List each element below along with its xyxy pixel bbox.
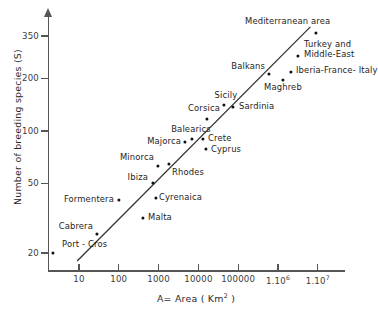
y-tick-label-200: 200 (20, 73, 39, 83)
y-tick-label-50: 50 (20, 178, 39, 188)
data-point-label: Crete (208, 134, 231, 144)
data-point-label: Corsica (188, 104, 220, 114)
data-point (222, 103, 225, 106)
x-tick-label-text: 1000 (147, 274, 170, 284)
data-point (289, 70, 292, 73)
data-point (95, 232, 98, 235)
data-point (296, 54, 299, 57)
data-point (314, 31, 317, 34)
data-point-label: Sardinia (239, 102, 274, 112)
x-tick-label-1000: 1000 (147, 274, 170, 284)
data-point-label: Cyrenaica (159, 193, 202, 203)
data-point-label: Ibiza (128, 173, 148, 183)
x-axis-title-post: ) (228, 293, 235, 304)
data-point-label: Cyprus (211, 145, 241, 155)
data-point (117, 198, 120, 201)
x-tick-label-text: 1.10 (266, 276, 286, 286)
data-point-label: Turkey and Middle-East (304, 40, 354, 59)
data-point (154, 196, 157, 199)
data-point-label: Rhodes (172, 168, 204, 178)
x-tick-1000 (158, 264, 159, 271)
x-tick-label-exponent: 6 (286, 274, 290, 281)
y-tick-100 (41, 130, 48, 131)
data-point-label: Iberia-France- Italy (296, 66, 378, 76)
data-point-label: Balkans (231, 62, 265, 72)
y-tick-350 (41, 35, 48, 36)
data-point (167, 162, 170, 165)
x-tick-label-1000000: 1.106 (266, 274, 290, 286)
data-point-label: Formentera (64, 195, 114, 205)
x-tick-label-10000000: 1.107 (306, 274, 330, 286)
data-point-label: Sicily (215, 91, 238, 101)
x-tick-10000000 (317, 264, 318, 271)
x-tick-100000 (238, 264, 239, 271)
y-tick-50 (41, 183, 48, 184)
y-tick-label-100: 100 (20, 126, 39, 136)
x-tick-label-10000: 10000 (184, 274, 212, 284)
x-tick-label-text: 1.10 (306, 276, 326, 286)
x-tick-100 (118, 264, 119, 271)
x-tick-label-text: 100 (110, 274, 127, 284)
data-point (267, 72, 270, 75)
x-tick-label-exponent: 7 (326, 274, 330, 281)
data-point (156, 164, 159, 167)
data-point (141, 216, 144, 219)
y-axis-line (48, 16, 49, 271)
data-point-label: Port - Cros (62, 240, 107, 250)
x-tick-label-100000: 100000 (221, 274, 255, 284)
y-tick-label-20: 20 (20, 248, 39, 258)
x-axis-title-pre: A= Area ( Km (157, 293, 224, 304)
data-point (183, 140, 186, 143)
x-axis-title: A= Area ( Km2 ) (157, 292, 235, 304)
data-point (281, 78, 284, 81)
y-tick-label-350: 350 (20, 31, 39, 41)
x-tick-10000 (198, 264, 199, 271)
data-point-label: Minorca (120, 153, 154, 163)
data-point (204, 147, 207, 150)
data-point (201, 137, 204, 140)
x-tick-label-text: 10 (73, 274, 84, 284)
y-tick-20 (41, 252, 48, 253)
x-axis-line (48, 270, 345, 271)
x-tick-1000000 (277, 264, 278, 271)
data-point (190, 137, 193, 140)
y-axis-arrowhead (44, 8, 52, 17)
x-tick-label-100: 100 (110, 274, 127, 284)
data-point-label: Maghreb (264, 83, 302, 93)
data-point (151, 181, 154, 184)
data-point-label: Mediterranean area (245, 17, 330, 27)
x-tick-label-10: 10 (73, 274, 84, 284)
x-tick-10 (78, 264, 79, 271)
data-point (51, 251, 54, 254)
data-point-label: Malta (148, 213, 172, 223)
y-tick-200 (41, 78, 48, 79)
data-point-label: Balearics (171, 125, 211, 135)
data-point-label: Majorca (147, 137, 181, 147)
data-point (231, 105, 234, 108)
data-point (205, 117, 208, 120)
x-tick-label-text: 10000 (184, 274, 212, 284)
x-tick-label-text: 100000 (221, 274, 255, 284)
data-point-label: Cabrera (59, 222, 93, 232)
